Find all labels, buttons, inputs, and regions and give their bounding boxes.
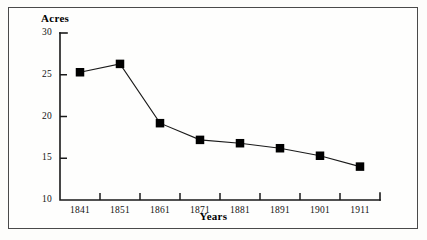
data-point-marker	[196, 136, 205, 145]
y-axis-title: Acres	[41, 12, 69, 24]
chart-figure: Acres Years 3025201510 18411851186118711…	[0, 0, 427, 240]
axis-lines	[60, 33, 380, 200]
x-tick-label: 1891	[258, 205, 302, 215]
data-point-marker	[276, 144, 285, 153]
x-axis-ticks	[100, 193, 340, 200]
y-tick-label: 15	[30, 152, 52, 162]
data-series-line	[80, 64, 360, 167]
data-point-markers	[76, 60, 365, 171]
data-point-marker	[316, 151, 325, 160]
x-tick-label: 1901	[298, 205, 342, 215]
x-tick-label: 1871	[178, 205, 222, 215]
y-tick-label: 20	[30, 111, 52, 121]
line-chart-plot	[0, 0, 427, 240]
y-tick-label: 25	[30, 69, 52, 79]
y-tick-label: 30	[30, 27, 52, 37]
x-tick-label: 1861	[138, 205, 182, 215]
x-tick-label: 1911	[338, 205, 382, 215]
data-point-marker	[76, 68, 85, 77]
x-tick-label: 1851	[98, 205, 142, 215]
y-axis-ticks	[60, 75, 67, 159]
data-point-marker	[116, 60, 125, 69]
data-point-marker	[236, 139, 245, 148]
y-tick-label: 10	[30, 194, 52, 204]
x-tick-label: 1881	[218, 205, 262, 215]
data-point-marker	[356, 162, 365, 171]
x-tick-label: 1841	[58, 205, 102, 215]
data-point-marker	[156, 119, 165, 128]
